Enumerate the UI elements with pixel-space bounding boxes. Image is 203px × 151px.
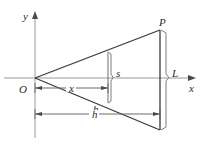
y-axis-label: y bbox=[22, 10, 28, 22]
measurement-L-label: L bbox=[171, 67, 178, 79]
measurement-s-label: s bbox=[116, 67, 120, 79]
x-axis-label: x bbox=[188, 82, 194, 94]
cone-geometry-diagram: y x O P L s x h x h bbox=[0, 0, 203, 151]
measurement-x-label-overlay: x bbox=[68, 82, 74, 94]
point-P-label: P bbox=[158, 16, 166, 28]
origin-label: O bbox=[19, 83, 27, 95]
measurement-h-label-overlay: h bbox=[92, 108, 98, 120]
figure-container: y x O P L s x h x h bbox=[0, 0, 203, 151]
